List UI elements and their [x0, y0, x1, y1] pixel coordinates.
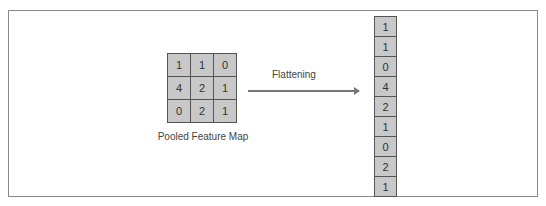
vector-cell: 1 — [375, 117, 396, 136]
vector-cell: 4 — [375, 77, 396, 96]
grid-cell: 1 — [191, 54, 213, 76]
flattening-label: Flattening — [272, 69, 316, 80]
grid-cell: 0 — [168, 100, 190, 122]
grid-cell: 2 — [191, 100, 213, 122]
pooled-feature-map-label: Pooled Feature Map — [148, 131, 258, 142]
vector-cell: 1 — [375, 177, 396, 196]
pooled-feature-map-grid: 1 1 0 4 2 1 0 2 1 — [167, 53, 237, 123]
vector-cell: 1 — [375, 17, 396, 36]
vector-cell: 0 — [375, 57, 396, 76]
arrow-right-icon — [248, 90, 356, 92]
vector-cell: 0 — [375, 137, 396, 156]
vector-cell: 1 — [375, 37, 396, 56]
vector-cell: 2 — [375, 157, 396, 176]
diagram-frame — [8, 10, 538, 197]
vector-cell: 2 — [375, 97, 396, 116]
grid-cell: 0 — [214, 54, 236, 76]
grid-cell: 1 — [214, 77, 236, 99]
grid-cell: 1 — [168, 54, 190, 76]
flattened-vector: 1 1 0 4 2 1 0 2 1 — [374, 16, 397, 197]
grid-cell: 2 — [191, 77, 213, 99]
grid-cell: 1 — [214, 100, 236, 122]
grid-cell: 4 — [168, 77, 190, 99]
